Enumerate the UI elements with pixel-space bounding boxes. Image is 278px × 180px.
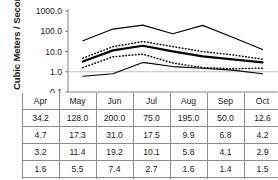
table-cell: 5.8 — [170, 144, 207, 161]
table-cell: 75.0 — [133, 110, 170, 127]
y-tick-label: 100.0 — [40, 26, 62, 36]
table-cell: 19.2 — [96, 144, 133, 161]
table-cell: 50.0 — [207, 110, 244, 127]
table-cell: 12.6 — [244, 110, 278, 127]
y-axis-tick-labels: 1000.0100.010.01.00.1 — [36, 6, 63, 93]
table-cell: 5.5 — [59, 161, 96, 178]
table-col-header-jul: Jul — [133, 93, 170, 110]
table-col-header-jun: Jun — [96, 93, 133, 110]
table-cell: 17.3 — [59, 127, 96, 144]
table-col-header-oct: Oct — [244, 93, 278, 110]
table-cell: 6.8 — [207, 127, 244, 144]
table-row: - 1 Std.1.65.57.42.71.61.41.5 — [22, 161, 278, 178]
table-cell: 195.0 — [170, 110, 207, 127]
series-line-daily-min — [83, 62, 263, 76]
table-cell: 0.6 — [22, 178, 59, 180]
series-lines — [83, 25, 263, 76]
table-row: Daily Mean3.211.419.210.15.84.12.9 — [22, 144, 278, 161]
table-cell: 34.2 — [22, 110, 59, 127]
table-cell: 200.0 — [96, 110, 133, 127]
table-header-row: AprMayJunJulAugSepOct — [22, 93, 278, 110]
table-cell: 1.5 — [170, 178, 207, 180]
table-cell: 128.0 — [59, 110, 96, 127]
table-col-header-aug: Aug — [170, 93, 207, 110]
table-cell: 0.8 — [59, 178, 96, 180]
data-table: AprMayJunJulAugSepOct Daily Max34.2128.0… — [22, 93, 278, 179]
table-cell: 9.9 — [170, 127, 207, 144]
table-col-header-sep: Sep — [207, 93, 244, 110]
table-cell: 2.7 — [133, 161, 170, 178]
table-cell: 4.2 — [244, 127, 278, 144]
y-tick-label: 1000.0 — [36, 6, 63, 16]
table-cell: 2.9 — [96, 178, 133, 180]
table-row: Daily Max34.2128.0200.075.0195.050.012.6 — [22, 110, 278, 127]
table-cell: 1.6 — [22, 161, 59, 178]
series-line-daily-max — [83, 25, 263, 49]
table-cell: 1.4 — [207, 161, 244, 178]
table-cell: 0.8 — [244, 178, 278, 180]
y-tick-label: 10.0 — [45, 47, 62, 57]
table-row: + 1 Std.4.717.331.017.59.96.84.2 — [22, 127, 278, 144]
table-cell: 1.2 — [207, 178, 244, 180]
chart-figure: Cubic Meters / Second 1000.0100.010.01.0… — [0, 0, 278, 179]
table-cell: 31.0 — [96, 127, 133, 144]
table-cell: 10.1 — [133, 144, 170, 161]
plot-area: 1000.0100.010.01.00.1 — [22, 2, 278, 93]
y-tick-label: 1.0 — [50, 67, 62, 77]
table-row: Daily Min.0.60.82.91.81.51.20.8 — [22, 178, 278, 180]
table-body: Daily Max34.2128.0200.075.0195.050.012.6… — [22, 110, 278, 180]
line-chart-svg: 1000.0100.010.01.00.1 — [22, 2, 278, 93]
table-col-header-may: May — [59, 93, 96, 110]
table-cell: 17.5 — [133, 127, 170, 144]
table-cell: 3.2 — [22, 144, 59, 161]
table-cell: 7.4 — [96, 161, 133, 178]
table-cell: 4.1 — [207, 144, 244, 161]
table-cell: 11.4 — [59, 144, 96, 161]
table-cell: 4.7 — [22, 127, 59, 144]
table-cell: 1.8 — [133, 178, 170, 180]
table-cell: 2.9 — [244, 144, 278, 161]
table-col-header-apr: Apr — [22, 93, 59, 110]
table-cell: 1.5 — [244, 161, 278, 178]
table-cell: 1.6 — [170, 161, 207, 178]
